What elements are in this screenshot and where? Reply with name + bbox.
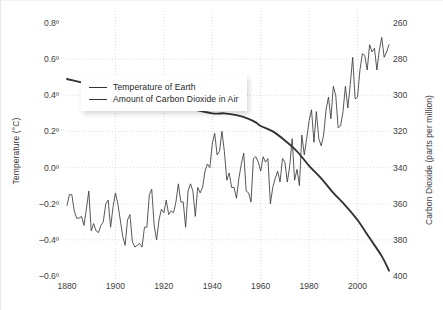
x-tick: 1960: [241, 281, 281, 291]
plot-svg: [67, 23, 389, 276]
y-tick-right: 400: [393, 271, 427, 281]
y-tick-left: 0.0º: [25, 163, 59, 173]
y-tick-right: 360: [393, 199, 427, 209]
y-tick-left: 0.4º: [25, 90, 59, 100]
x-tick: 1880: [47, 281, 87, 291]
y-tick-left: –0.4º: [25, 235, 59, 245]
x-tick: 1920: [144, 281, 184, 291]
x-tick: 2000: [338, 281, 378, 291]
x-tick: 1980: [289, 281, 329, 291]
legend-label-temperature: Temperature of Earth: [113, 82, 196, 92]
y-tick-right: 320: [393, 126, 427, 136]
chart-legend: Temperature of Earth Amount of Carbon Di…: [81, 75, 247, 111]
x-tick: 1900: [95, 281, 135, 291]
legend-item-temperature: Temperature of Earth: [89, 81, 238, 93]
y-tick-right: 300: [393, 90, 427, 100]
y-tick-left: –0.6º: [25, 271, 59, 281]
y-tick-right: 380: [393, 235, 427, 245]
y-tick-left: 0.2º: [25, 126, 59, 136]
legend-label-co2: Amount of Carbon Dioxide in Air: [113, 94, 238, 104]
climate-chart-figure: Temperature (°C) Carbon Dioxide (parts p…: [0, 0, 443, 310]
plot-area: [67, 23, 389, 276]
y-tick-left: 0.6º: [25, 54, 59, 64]
y-tick-left: 0.8º: [25, 18, 59, 28]
y-tick-right: 280: [393, 54, 427, 64]
y-tick-right: 340: [393, 163, 427, 173]
gridlines: [67, 11, 389, 288]
y-axis-right-title: Carbon Dioxide (parts per million): [424, 80, 434, 240]
x-tick: 1940: [192, 281, 232, 291]
y-tick-right: 260: [393, 18, 427, 28]
legend-swatch-co2: [89, 99, 107, 100]
y-axis-left-title: Temperature (°C): [11, 101, 21, 201]
legend-item-co2: Amount of Carbon Dioxide in Air: [89, 93, 238, 105]
y-tick-left: –0.2º: [25, 199, 59, 209]
legend-swatch-temperature: [89, 87, 107, 88]
